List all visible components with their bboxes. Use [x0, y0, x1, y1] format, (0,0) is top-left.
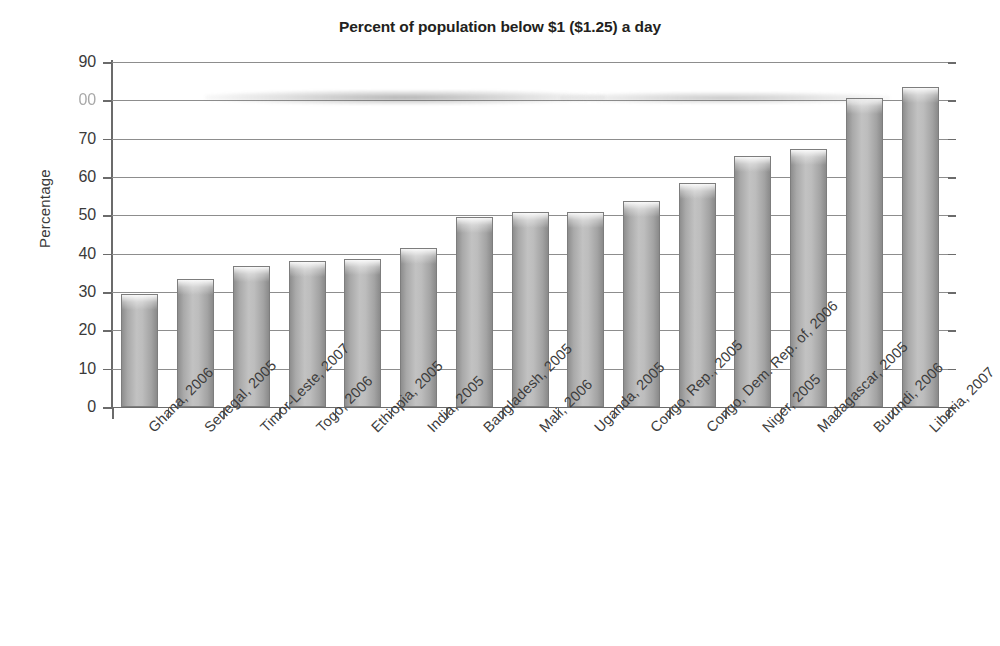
y-axis-tick-60	[103, 177, 112, 179]
y-axis-tick-50	[103, 215, 112, 217]
bar	[790, 149, 827, 407]
y-axis-tick-0	[103, 407, 112, 409]
gridline-90	[112, 62, 948, 63]
y-axis-label-40: 40	[36, 245, 96, 263]
y-axis-tick-right-60	[948, 177, 956, 179]
y-axis-label-20: 20	[36, 321, 96, 339]
gridline-80	[112, 100, 948, 101]
y-axis-tick-right-90	[948, 62, 956, 64]
y-axis-label-80: 00	[36, 91, 96, 109]
y-axis-tick-70	[103, 139, 112, 141]
y-axis-tick-20	[103, 330, 112, 332]
y-axis-tick-30	[103, 292, 112, 294]
y-axis-tick-right-40	[948, 254, 956, 256]
plot-area	[112, 62, 948, 407]
y-axis-tick-right-80	[948, 100, 956, 102]
y-axis-tick-right-20	[948, 330, 956, 332]
y-axis-label-10: 10	[36, 360, 96, 378]
y-axis-label-50: 50	[36, 206, 96, 224]
chart-title: Percent of population below $1 ($1.25) a…	[0, 18, 1000, 36]
bar	[121, 294, 158, 407]
y-axis-tick-right-70	[948, 139, 956, 141]
y-axis-label-70: 70	[36, 130, 96, 148]
gridline-70	[112, 139, 948, 140]
x-axis-tick	[112, 408, 114, 419]
y-axis-tick-40	[103, 254, 112, 256]
y-axis-tick-90	[103, 62, 112, 64]
y-axis-tick-80	[103, 100, 112, 102]
y-axis-label-30: 30	[36, 283, 96, 301]
y-axis-tick-right-50	[948, 215, 956, 217]
y-axis-label-90: 90	[36, 53, 96, 71]
y-axis-label-60: 60	[36, 168, 96, 186]
y-axis-label-0: 0	[36, 398, 96, 416]
y-axis-tick-right-30	[948, 292, 956, 294]
y-axis-tick-10	[103, 369, 112, 371]
y-axis-tick-right-10	[948, 369, 956, 371]
